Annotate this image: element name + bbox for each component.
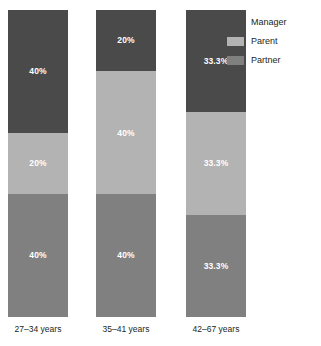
category-label-42-67: 42–67 years	[171, 324, 261, 334]
bar-segment-partner[interactable]: 40%	[96, 194, 156, 317]
legend-swatch-icon	[227, 56, 244, 65]
legend: Manager Parent Partner	[227, 13, 315, 70]
legend-item-label: Partner	[251, 56, 281, 65]
legend-swatch-icon	[227, 18, 244, 27]
legend-item-label: Parent	[251, 37, 278, 46]
legend-item-manager[interactable]: Manager	[227, 13, 315, 32]
category-label-35-41: 35–41 years	[81, 324, 171, 334]
legend-item-label: Manager	[251, 18, 287, 27]
bar-group-27-34: 40% 20% 40%	[8, 10, 68, 317]
bar-segment-label: 40%	[29, 67, 46, 76]
legend-item-partner[interactable]: Partner	[227, 51, 315, 70]
bar-segment-parent[interactable]: 40%	[96, 71, 156, 194]
legend-item-parent[interactable]: Parent	[227, 32, 315, 51]
bar-segment-label: 40%	[29, 251, 46, 260]
bar-segment-label: 20%	[29, 159, 46, 168]
legend-swatch-icon	[227, 37, 244, 46]
category-label-27-34: 27–34 years	[0, 324, 83, 334]
bar-segment-parent[interactable]: 33.3%	[186, 112, 246, 214]
bar-segment-label: 20%	[117, 36, 134, 45]
bar-segment-parent[interactable]: 20%	[8, 133, 68, 194]
bar-segment-label: 40%	[117, 251, 134, 260]
bar-segment-partner[interactable]: 40%	[8, 194, 68, 317]
bar-segment-label: 33.3%	[204, 159, 229, 168]
bar-segment-manager[interactable]: 40%	[8, 10, 68, 133]
bar-segment-label: 33.3%	[204, 57, 229, 66]
stacked-bar-chart: 40% 20% 40% 20% 40% 40% 33.3%	[0, 0, 321, 346]
bar-segment-label: 40%	[117, 129, 134, 138]
plot-area: 40% 20% 40% 20% 40% 40% 33.3%	[0, 0, 260, 346]
bar-segment-partner[interactable]: 33.3%	[186, 215, 246, 317]
bar-segment-manager[interactable]: 20%	[96, 10, 156, 71]
bar-segment-label: 33.3%	[204, 262, 229, 271]
bar-group-35-41: 20% 40% 40%	[96, 10, 156, 317]
